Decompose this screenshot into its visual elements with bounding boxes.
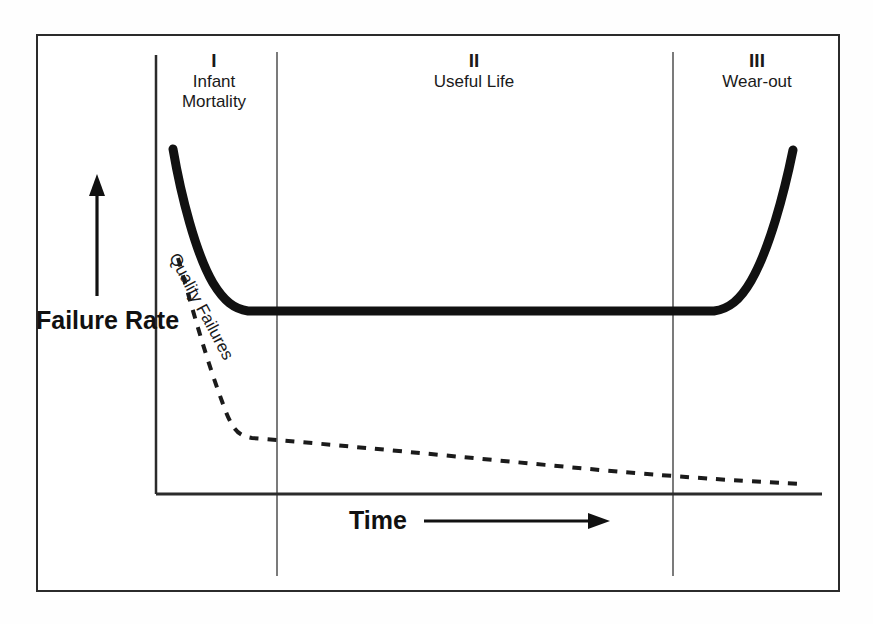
phase-1-name-line1: Infant: [182, 72, 246, 92]
failure-rate-curve: [173, 149, 793, 311]
phase-2-numeral: II: [434, 50, 514, 72]
phase-label-3: III Wear-out: [722, 50, 792, 92]
x-axis-title: Time: [349, 506, 407, 536]
phase-1-name-line2: Mortality: [182, 92, 246, 112]
phase-3-name-line1: Wear-out: [722, 72, 792, 92]
phase-2-name-line1: Useful Life: [434, 72, 514, 92]
bathtub-curve-figure: I Infant Mortality II Useful Life III We…: [0, 0, 873, 624]
y-axis-title: Failure Rate: [36, 306, 158, 336]
failure-rate-arrow: [89, 174, 105, 296]
phase-label-2: II Useful Life: [434, 50, 514, 92]
phase-3-numeral: III: [722, 50, 792, 72]
y-axis-title-text: Failure Rate: [36, 306, 158, 336]
quality-failures-curve: [178, 258, 802, 484]
phase-label-1: I Infant Mortality: [182, 50, 246, 113]
time-arrow: [424, 513, 610, 529]
phase-1-numeral: I: [182, 50, 246, 72]
